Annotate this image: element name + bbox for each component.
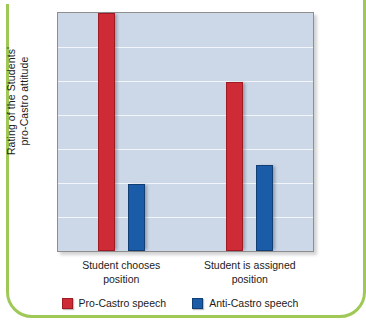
legend-item-anti-castro: Anti-Castro speech	[192, 297, 298, 309]
plot-area	[57, 12, 314, 252]
legend-label-pro-castro: Pro-Castro speech	[79, 297, 167, 309]
x-axis-labels: Student chooses position Student is assi…	[57, 258, 314, 286]
x-axis-group-1-line2: position	[186, 272, 315, 286]
y-axis-label-line2: pro-Castro attitude	[18, 0, 31, 216]
x-axis-group-0-line1: Student chooses	[82, 259, 160, 271]
x-axis-group-0-line2: position	[57, 272, 186, 286]
x-axis-group-1-line1: Student is assigned	[204, 259, 296, 271]
gridline	[58, 115, 313, 116]
frame-mask-right	[330, 0, 334, 288]
gridline	[58, 217, 313, 218]
gridline	[58, 183, 313, 184]
y-axis-label: Rating of the Students' pro-Castro attit…	[5, 0, 31, 216]
x-axis-group-1: Student is assigned position	[186, 258, 315, 286]
y-axis-label-line1: Rating of the Students'	[5, 47, 17, 155]
bar-pro-group-1	[226, 82, 243, 251]
gridline	[58, 81, 313, 82]
x-axis-group-0: Student chooses position	[57, 258, 186, 286]
bar-pro-group-0	[98, 13, 115, 251]
legend-label-anti-castro: Anti-Castro speech	[209, 297, 298, 309]
legend-swatch-anti-castro-icon	[192, 298, 203, 309]
legend-item-pro-castro: Pro-Castro speech	[62, 297, 167, 309]
gridline	[58, 149, 313, 150]
frame-mask-top	[0, 0, 334, 4]
bar-anti-group-0	[128, 184, 145, 251]
gridline	[58, 47, 313, 48]
bar-anti-group-1	[256, 165, 273, 251]
chart-legend: Pro-Castro speech Anti-Castro speech	[44, 297, 316, 309]
legend-swatch-pro-castro-icon	[62, 298, 73, 309]
